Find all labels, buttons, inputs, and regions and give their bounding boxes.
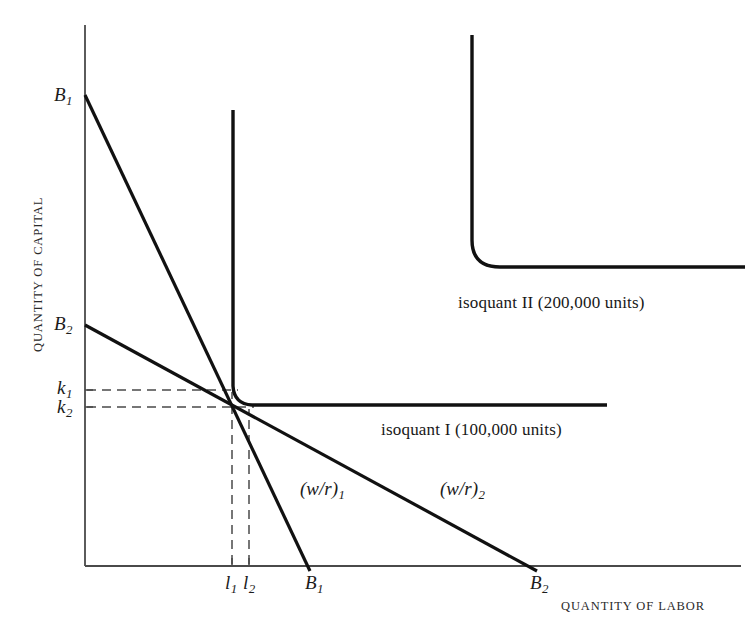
label-B2-capital-intercept-text: B bbox=[54, 313, 66, 334]
label-wage-rental-ratio-2-sub: 2 bbox=[478, 487, 485, 502]
label-B1-capital-intercept-text: B bbox=[54, 84, 66, 105]
label-B1-labor-intercept-sub: 1 bbox=[317, 581, 324, 596]
isoquant-II-curve bbox=[472, 35, 745, 267]
label-wage-rental-ratio-2: (w/r)2 bbox=[440, 479, 485, 502]
label-l1: l1 bbox=[225, 573, 237, 596]
isoquant-II-label: isoquant II (200,000 units) bbox=[458, 294, 645, 311]
dashed-guides-group bbox=[87, 390, 254, 564]
label-l2: l2 bbox=[243, 573, 255, 596]
label-B1-capital-intercept-sub: 1 bbox=[66, 93, 73, 108]
diagram-canvas bbox=[0, 0, 754, 632]
x-axis-title: QUANTITY OF LABOR bbox=[561, 600, 705, 613]
label-B2-labor-intercept-text: B bbox=[530, 572, 542, 593]
label-B1-capital-intercept: B1 bbox=[54, 85, 73, 108]
label-wage-rental-ratio-1-sub: 1 bbox=[338, 487, 345, 502]
label-B2-labor-intercept-sub: 2 bbox=[542, 581, 549, 596]
label-B1-labor-intercept-text: B bbox=[305, 572, 317, 593]
label-B2-capital-intercept-sub: 2 bbox=[66, 322, 73, 337]
isoquant-I-curve bbox=[233, 110, 607, 405]
label-B2-capital-intercept: B2 bbox=[54, 314, 73, 337]
budget-line-B1 bbox=[85, 95, 310, 571]
label-l1-sub: 1 bbox=[230, 581, 237, 596]
budget-line-B2 bbox=[85, 325, 537, 571]
y-axis-title: QUANTITY OF CAPITAL bbox=[32, 197, 45, 352]
label-B1-labor-intercept: B1 bbox=[305, 573, 324, 596]
label-wage-rental-ratio-1: (w/r)1 bbox=[300, 479, 345, 502]
axis-ticks-group bbox=[85, 390, 249, 566]
label-wage-rental-ratio-2-text: (w/r) bbox=[440, 478, 478, 499]
label-k2-sub: 2 bbox=[65, 405, 72, 420]
label-wage-rental-ratio-1-text: (w/r) bbox=[300, 478, 338, 499]
label-B2-labor-intercept: B2 bbox=[530, 573, 549, 596]
label-k2: k2 bbox=[57, 397, 72, 420]
label-l2-sub: 2 bbox=[248, 581, 255, 596]
isoquant-I-label: isoquant I (100,000 units) bbox=[381, 421, 562, 438]
isoquant-figure: QUANTITY OF CAPITAL QUANTITY OF LABOR B1… bbox=[0, 0, 754, 632]
